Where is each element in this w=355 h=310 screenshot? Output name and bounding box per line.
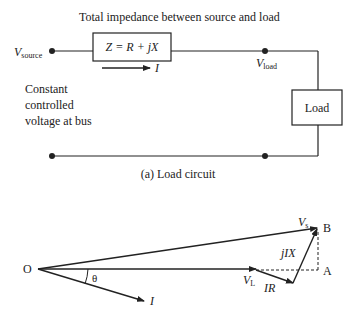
load-terminal-top <box>262 48 268 54</box>
load-label: Load <box>305 101 330 115</box>
theta-arc <box>85 269 88 284</box>
circuit-caption: (a) Load circuit <box>141 167 216 181</box>
current-label: I <box>154 61 160 75</box>
origin-label: O <box>23 262 32 276</box>
point-b-label: B <box>323 221 331 235</box>
impedance-label: Z = R + jX <box>106 40 160 54</box>
phasor-diagram: O Vs B VL A IR jIX I θ <box>23 215 332 308</box>
note-line-1: Constant <box>25 82 68 96</box>
v-source-label: Vsource <box>14 45 43 60</box>
note-line-2: controlled <box>25 98 74 112</box>
note-line-3: voltage at bus <box>25 114 92 128</box>
jix-phasor <box>293 229 317 283</box>
load-circuit: Total impedance between source and load … <box>14 10 342 181</box>
ir-label: IR <box>263 281 276 295</box>
current-phasor <box>38 269 144 301</box>
v-load-label: Vload <box>256 56 277 71</box>
vs-phasor <box>38 228 317 269</box>
vs-label: Vs <box>298 215 308 230</box>
point-a-label: A <box>323 264 332 278</box>
jix-label: jIX <box>279 246 296 260</box>
load-terminal-bottom <box>262 153 268 159</box>
source-terminal-bottom <box>49 153 55 159</box>
current-phasor-label: I <box>149 294 155 308</box>
theta-label: θ <box>92 272 97 284</box>
vl-label: VL <box>243 273 255 288</box>
load-circuit-figure: Total impedance between source and load … <box>0 0 355 310</box>
circuit-title: Total impedance between source and load <box>79 10 280 24</box>
